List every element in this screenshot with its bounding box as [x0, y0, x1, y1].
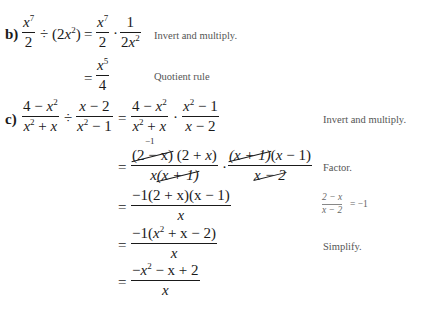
c-factored-fraction-1: (2 − x) (2 + x) x(x + 1): [131, 148, 218, 183]
equals-sign: =: [118, 238, 126, 253]
cancelled-factor: (x + 1): [229, 148, 271, 163]
c-result-fraction-4: −1(x2 + x − 2) x: [131, 226, 217, 261]
step-note: Invert and multiply.: [323, 114, 406, 125]
c-fraction-2: x − 2 x2 − 1: [76, 99, 113, 134]
equals-sign: =: [84, 71, 92, 86]
equals-sign: =: [84, 27, 92, 42]
multiply-dot: ·: [113, 26, 118, 41]
equals-sign: =: [118, 111, 126, 126]
side-note-result: = −1: [350, 199, 368, 209]
step-note: Simplify.: [323, 241, 362, 252]
step-note: Factor.: [323, 162, 352, 173]
b-rhs-fraction-2: 1 2x2: [120, 15, 141, 50]
equals-sign: =: [118, 275, 126, 290]
cancelled-factor: x − 2: [254, 168, 286, 183]
step-note: Invert and multiply.: [154, 30, 237, 41]
equals-sign: =: [118, 200, 126, 215]
part-b-label: b): [5, 26, 18, 43]
multiply-dot: ·: [173, 110, 178, 125]
c-final-fraction: −x2 − x + 2 x: [131, 263, 200, 298]
b-divisor: (2x2): [52, 27, 81, 42]
c-fraction-4: x2 − 1 x − 2: [182, 99, 219, 134]
b-rhs-fraction-1: x7 2: [96, 15, 109, 50]
part-c-label: c): [5, 111, 17, 128]
equals-sign: =: [118, 160, 126, 175]
c-result-fraction-3: −1(2 + x)(x − 1) x: [131, 188, 231, 223]
divide-operator: ÷: [64, 111, 72, 126]
side-note-fraction: 2 − x x − 2: [322, 193, 342, 215]
multiply-dot: ·: [222, 160, 227, 175]
divide-operator: ÷: [40, 27, 48, 42]
c-fraction-1: 4 − x2 x2 + x: [22, 99, 59, 134]
c-fraction-3: 4 − x2 x2 + x: [131, 99, 168, 134]
b-lhs-fraction: x7 2: [22, 15, 35, 50]
step-note: Quotient rule: [154, 71, 210, 82]
cancelled-factor: (x + 1): [157, 168, 199, 183]
b-result-fraction: x5 4: [96, 58, 109, 93]
c-factored-fraction-2: (x + 1)(x − 1) x − 2: [228, 148, 312, 183]
cancelled-factor: (2 − x): [132, 148, 173, 163]
cancel-mark: −1: [145, 136, 155, 146]
